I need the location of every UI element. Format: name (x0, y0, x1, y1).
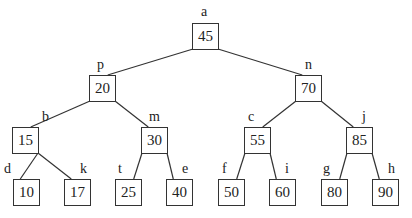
node-label-g: g (323, 162, 330, 176)
node-label-i: i (285, 162, 289, 176)
edge-m-t (134, 153, 142, 179)
node-label-e: e (182, 162, 188, 176)
node-label-a: a (201, 5, 207, 19)
edge-c-i (270, 153, 276, 179)
node-d: 10 (13, 179, 40, 206)
node-h: 90 (372, 179, 399, 206)
node-e: 40 (166, 179, 193, 206)
edge-p-m (115, 101, 148, 127)
node-k: 17 (64, 179, 91, 206)
node-label-n: n (305, 58, 312, 72)
edge-j-g (340, 153, 347, 179)
node-label-k: k (80, 162, 87, 176)
edge-a-n (218, 49, 302, 75)
node-m: 30 (141, 127, 168, 154)
node-label-f: f (222, 162, 227, 176)
node-p: 20 (89, 75, 116, 102)
edge-c-f (237, 153, 245, 179)
edge-m-e (167, 153, 173, 179)
node-t: 25 (115, 179, 142, 206)
node-j: 85 (346, 127, 373, 154)
node-n: 70 (295, 75, 322, 102)
node-label-b: b (42, 110, 49, 124)
node-f: 50 (218, 179, 245, 206)
edge-p-b (31, 101, 90, 127)
node-label-p: p (97, 58, 104, 72)
node-i: 60 (269, 179, 296, 206)
node-label-j: j (362, 110, 366, 124)
node-label-d: d (4, 162, 11, 176)
node-g: 80 (321, 179, 348, 206)
node-label-t: t (118, 162, 122, 176)
node-label-m: m (149, 110, 160, 124)
edge-n-c (263, 101, 296, 127)
edge-j-h (372, 153, 379, 179)
node-b: 15 (12, 127, 39, 154)
node-label-h: h (388, 162, 395, 176)
edge-b-d (20, 153, 38, 179)
node-label-c: c (248, 110, 254, 124)
tree-diagram: a 45 p 20 n 70 b 15 m 30 c 55 j 85 d 10 … (0, 0, 412, 218)
edge-a-p (108, 49, 193, 75)
edge-n-j (321, 101, 353, 127)
node-a: 45 (192, 23, 219, 50)
node-c: 55 (244, 127, 271, 154)
edge-b-k (38, 153, 71, 179)
